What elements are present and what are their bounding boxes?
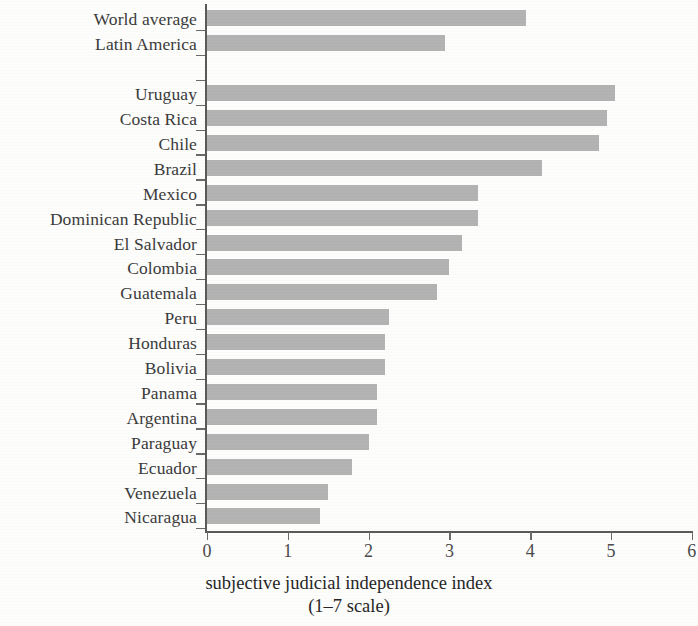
- y-axis-tick: [196, 130, 205, 131]
- y-axis-tick: [196, 403, 205, 404]
- x-axis-tick: [288, 532, 289, 540]
- x-axis-tick-label: 6: [677, 541, 698, 562]
- category-label: World average: [94, 11, 197, 29]
- y-axis-tick: [196, 279, 205, 280]
- y-axis-tick: [196, 30, 205, 31]
- y-axis-tick: [196, 503, 205, 504]
- plot-area: World averageLatin AmericaUruguayCosta R…: [0, 0, 698, 536]
- y-axis-tick: [196, 478, 205, 479]
- category-label: El Salvador: [114, 236, 197, 254]
- category-label: Honduras: [128, 335, 197, 353]
- bar: [207, 484, 328, 500]
- bars-container: [207, 0, 698, 536]
- category-label: Nicaragua: [124, 509, 197, 527]
- bar: [207, 10, 526, 26]
- y-axis-tick: [196, 154, 205, 155]
- x-axis-tick: [692, 532, 693, 540]
- bar: [207, 309, 389, 325]
- x-axis-tick-label: 1: [273, 541, 303, 562]
- x-axis-caption-line1: subjective judicial independence index: [205, 573, 492, 593]
- category-label: Latin America: [95, 36, 197, 54]
- category-label: Guatemala: [120, 285, 197, 303]
- x-axis-tick: [207, 532, 208, 540]
- category-label: Mexico: [143, 186, 197, 204]
- category-label: Dominican Republic: [50, 211, 197, 229]
- category-label: Brazil: [154, 161, 197, 179]
- y-axis-tick: [196, 528, 205, 529]
- x-axis-tick-label: 5: [596, 541, 626, 562]
- x-axis-tick-label: 4: [515, 541, 545, 562]
- category-label: Paraguay: [131, 435, 197, 453]
- y-axis-tick: [196, 304, 205, 305]
- category-label: Colombia: [127, 260, 197, 278]
- y-axis-tick: [196, 80, 205, 81]
- y-axis-tick: [196, 354, 205, 355]
- x-axis-caption: subjective judicial independence index (…: [0, 572, 698, 618]
- y-axis-tick: [196, 254, 205, 255]
- bar: [207, 384, 377, 400]
- y-axis-tick: [196, 179, 205, 180]
- x-axis-tick-label: 2: [354, 541, 384, 562]
- x-axis-tick: [369, 532, 370, 540]
- bar: [207, 409, 377, 425]
- bar: [207, 210, 478, 226]
- category-label: Peru: [165, 310, 197, 328]
- bar: [207, 284, 437, 300]
- bar: [207, 160, 542, 176]
- bar: [207, 35, 445, 51]
- bar: [207, 135, 599, 151]
- y-axis-tick: [196, 55, 205, 56]
- y-axis-line: [205, 4, 207, 532]
- category-label: Bolivia: [145, 360, 197, 378]
- bar: [207, 110, 607, 126]
- x-axis-tick: [611, 532, 612, 540]
- y-axis-tick: [196, 204, 205, 205]
- y-axis-tick: [196, 329, 205, 330]
- category-label: Chile: [159, 136, 197, 154]
- bar: [207, 359, 385, 375]
- category-label: Ecuador: [138, 460, 197, 478]
- category-label: Uruguay: [135, 86, 197, 104]
- x-axis-tick-label: 0: [192, 541, 222, 562]
- bar: [207, 85, 615, 101]
- bar: [207, 434, 369, 450]
- bar: [207, 235, 462, 251]
- x-axis-tick: [449, 532, 450, 540]
- bar-chart: World averageLatin AmericaUruguayCosta R…: [0, 0, 698, 626]
- bar: [207, 334, 385, 350]
- category-label: Venezuela: [124, 485, 197, 503]
- bar: [207, 185, 478, 201]
- bar: [207, 459, 352, 475]
- category-label: Costa Rica: [120, 111, 197, 129]
- category-label: Panama: [141, 385, 197, 403]
- category-label: Argentina: [126, 410, 197, 428]
- y-axis-tick: [196, 229, 205, 230]
- bar: [207, 508, 320, 524]
- y-axis-tick: [196, 453, 205, 454]
- x-axis-tick: [530, 532, 531, 540]
- y-axis-tick: [196, 379, 205, 380]
- x-axis-tick-label: 3: [434, 541, 464, 562]
- y-axis-tick: [196, 105, 205, 106]
- x-axis-caption-line2: (1–7 scale): [0, 595, 698, 618]
- bar: [207, 259, 449, 275]
- y-axis-tick: [196, 428, 205, 429]
- y-axis-category-labels: World averageLatin AmericaUruguayCosta R…: [0, 0, 203, 536]
